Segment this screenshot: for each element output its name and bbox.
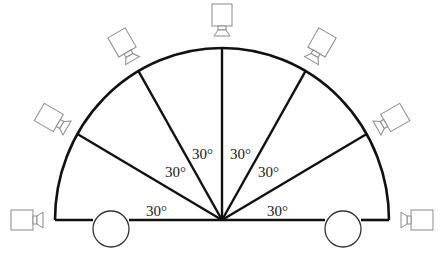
angle-label-1: 30° — [146, 204, 167, 219]
diagram-canvas — [0, 0, 443, 261]
angle-label-6: 30° — [267, 204, 288, 219]
angle-label-5: 30° — [258, 165, 279, 180]
wheel-1 — [93, 211, 129, 247]
angle-label-3: 30° — [192, 147, 213, 162]
camera-body — [411, 210, 433, 230]
camera-neck — [218, 26, 226, 30]
camera-lens — [401, 212, 407, 228]
camera-120-icon — [303, 28, 336, 66]
radial-lines — [77, 48, 366, 220]
camera-body — [11, 210, 33, 230]
angle-label-4: 30° — [230, 147, 251, 162]
camera-neck — [33, 216, 37, 224]
camera-lens — [37, 212, 43, 228]
camera-180-icon — [401, 210, 433, 230]
camera-lens — [214, 30, 230, 36]
camera-neck — [407, 216, 411, 224]
wheel-2 — [325, 211, 361, 247]
camera-90-icon — [212, 4, 232, 36]
camera-body — [212, 4, 232, 26]
camera-0-icon — [11, 210, 43, 230]
camera-arc-diagram: 30° 30° 30° 30° 30° 30° — [0, 0, 443, 261]
camera-30-icon — [34, 103, 72, 136]
camera-150-icon — [372, 103, 410, 136]
angle-label-2: 30° — [165, 165, 186, 180]
camera-60-icon — [108, 28, 141, 66]
